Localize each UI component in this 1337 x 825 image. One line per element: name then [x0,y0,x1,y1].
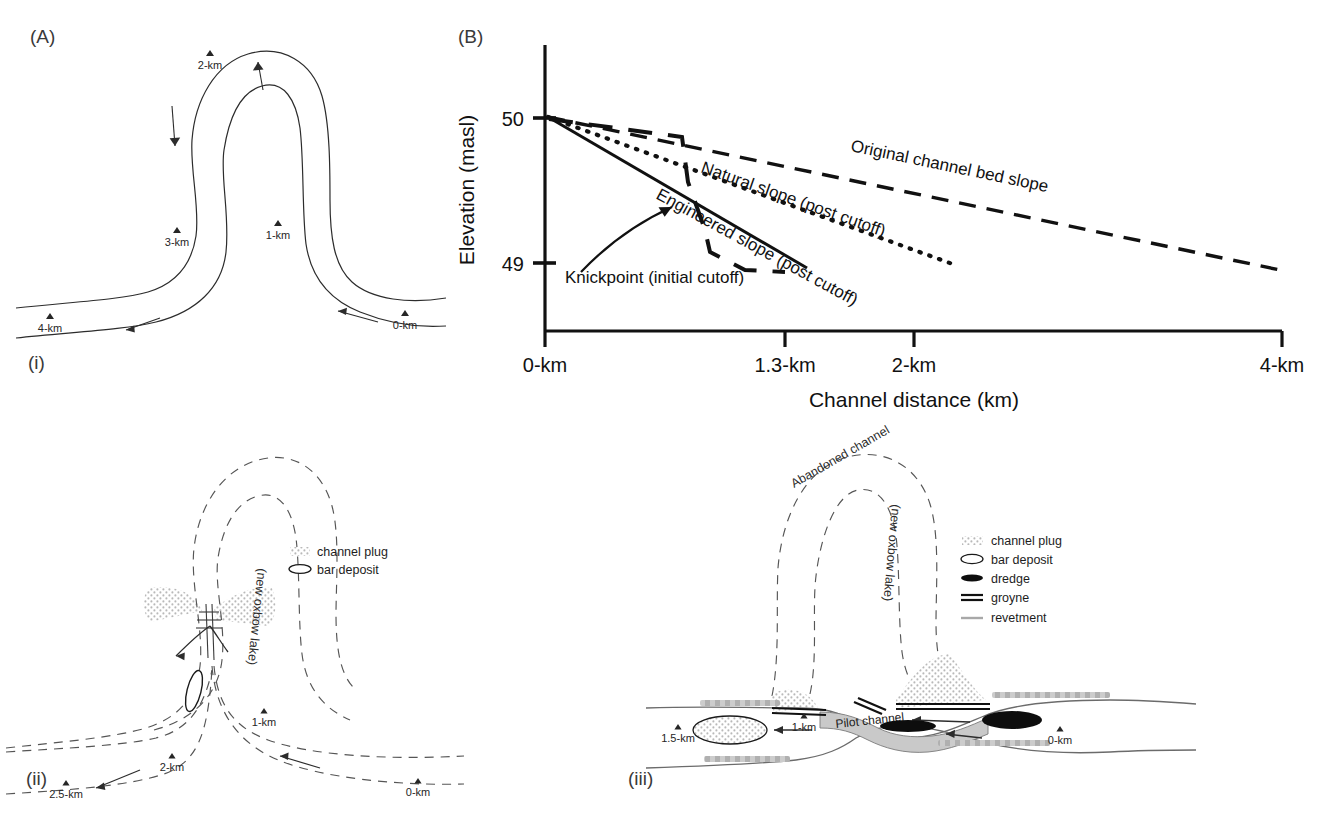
panel-ii-marker-1km-label: 1-km [252,716,276,728]
panel-ii-legend-label-1: bar deposit [317,563,379,577]
panel-iii-legend-item-3: groyne [961,591,1029,605]
abandoned-channel-label-group-iii: Abandoned channel (new oxbow lake) [789,423,903,602]
panel-iii-legend: channel plug bar deposit dredge groyne r… [961,534,1062,625]
sub-label-ii: (ii) [26,768,47,790]
x-tick-label-0km: 0-km [523,354,567,376]
revetment-2 [992,692,1110,698]
site-marker-4km-label: 4-km [38,322,62,334]
site-marker-3km: 3-km [165,227,189,248]
revetment-1 [700,700,780,706]
y-tick-label-50: 50 [502,108,524,130]
inner-bank-line [16,85,446,338]
panel-iii-svg: Pilot channel [640,408,1200,825]
abandoned-outer-bank-iii [772,455,958,696]
panel-ii-marker-2km-label: 2-km [160,761,184,773]
knickpoint-leader-line [581,207,672,272]
new-channel-bank-upper-left [6,670,212,752]
panel-iii-legend-label-0: channel plug [991,534,1062,548]
bar-deposit-shape-iii [693,716,767,744]
panel-ii-post-cutoff-map: Abandoned channel (new oxbow lake) 0-km … [0,408,470,825]
new-channel-bank-upper-right [214,666,464,757]
sub-label-i: (i) [28,352,45,374]
panel-ii-svg: Abandoned channel (new oxbow lake) 0-km … [0,408,470,825]
panel-iii-marker-1km: 1-km [792,713,816,733]
panel-a-label: (A) [30,26,55,48]
y-axis-title: Elevation (masl) [455,115,478,266]
stipple-swatch-icon [962,536,983,545]
channel-plug-west [144,587,202,622]
panel-iii-legend-item-4: revetment [961,611,1047,625]
panel-ii-flow-arrows [96,752,320,790]
chart-svg: Elevation (masl) 50 49 0-km 1.3-km 2-km … [450,0,1337,410]
panel-iii-marker-0km-label: 0-km [1048,734,1072,746]
panel-iii-legend-label-2: dredge [991,572,1030,586]
panel-ii-legend-label-0: channel plug [317,545,388,559]
panel-ii-marker-1km: 1-km [252,708,276,728]
flow-arrow-group [126,62,378,333]
site-marker-2km-label: 2-km [198,59,222,71]
stipple-swatch-icon [290,547,310,556]
panel-iii-legend-label-1: bar deposit [991,553,1053,567]
sub-label-iii: (iii) [628,768,653,790]
panel-i-svg: 0-km 1-km 2-km 3-km 4-km [0,0,450,400]
panel-iii-engineered-map: Pilot channel [640,408,1200,825]
channel-plug-east-iii [896,654,986,708]
panel-ii-legend-item-1: bar deposit [289,563,379,577]
panel-iii-legend-label-3: groyne [991,591,1029,605]
abandoned-channel-label-sub-iii: (new oxbow lake) [881,504,903,602]
site-marker-2km: 2-km [198,50,222,71]
panel-ii-marker-25km-label: 2.5-km [49,788,83,800]
ellipse-filled-icon [961,575,983,582]
panel-ii-legend-item-0: channel plug [290,545,388,559]
site-marker-4km: 4-km [38,313,62,334]
site-marker-1km: 1-km [266,220,290,241]
panel-b-label: (B) [458,26,483,48]
site-marker-0km-label: 0-km [393,319,417,331]
panel-ii-marker-0km-label: 0-km [406,786,430,798]
site-marker-0km: 0-km [393,310,417,331]
panel-i-meander-map: (A) 0-km 1-km 2-km [0,0,450,400]
panel-ii-marker-2km: 2-km [160,753,184,773]
new-channel-bank-lower-right [212,666,464,784]
x-tick-label-2km: 2-km [892,354,936,376]
panel-ii-marker-0km: 0-km [406,778,430,798]
panel-iii-legend-item-2: dredge [961,572,1030,586]
panel-iii-marker-0km: 0-km [1048,726,1072,746]
ellipse-outline-icon [289,565,311,574]
site-marker-1km-label: 1-km [266,229,290,241]
panel-iii-marker-1km-label: 1-km [792,721,816,733]
abandoned-inner-bank-iii [810,490,932,702]
revetment-3 [938,740,1050,746]
panel-iii-legend-label-4: revetment [991,611,1047,625]
panel-iii-legend-item-0: channel plug [962,534,1062,548]
y-tick-label-49: 49 [502,253,524,275]
revetment-4 [704,756,790,762]
panel-ii-marker-25km: 2.5-km [49,780,83,800]
panel-b-long-profile-chart: (B) Elevation (masl) 50 49 0-km 1.3-km 2… [450,0,1337,410]
panel-iii-legend-item-1: bar deposit [961,553,1053,567]
x-tick-label-4km: 4-km [1260,354,1304,376]
panel-iii-marker-15km: 1.5-km [661,724,695,744]
bar-deposit-shape [182,669,206,713]
dredge-1 [880,720,936,732]
neck-flow-arrows [176,626,228,660]
site-marker-3km-label: 3-km [165,236,189,248]
abandoned-channel-label-main-iii: Abandoned channel [789,423,892,491]
ellipse-outline-icon [961,554,983,563]
knickpoint-annotation-label: Knickpoint (initial cutoff) [565,268,744,287]
outer-bank-line [16,51,446,308]
panel-iii-marker-15km-label: 1.5-km [661,732,695,744]
dredge-2 [982,711,1042,729]
x-tick-label-13km: 1.3-km [754,354,815,376]
panel-ii-legend: channel plug bar deposit [289,545,388,577]
